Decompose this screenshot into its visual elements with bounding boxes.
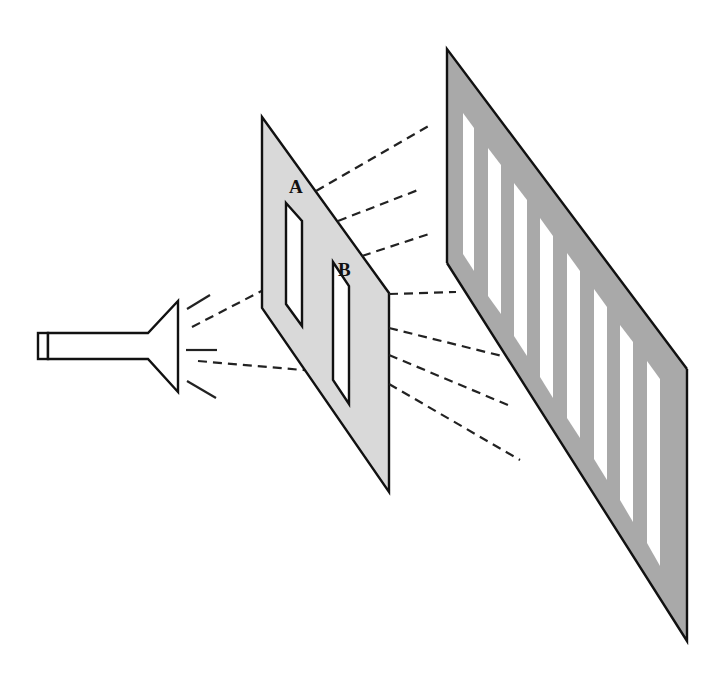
double-slit-diagram: A B [0, 0, 727, 682]
label-slit-a: A [289, 176, 303, 197]
slit-b [333, 262, 349, 404]
flashlight-icon [38, 301, 178, 392]
light-rays-short [186, 295, 217, 398]
barrier-panel: A B [262, 117, 389, 492]
slit-a [286, 203, 302, 326]
screen-panel [447, 49, 687, 641]
label-slit-b: B [338, 259, 351, 280]
